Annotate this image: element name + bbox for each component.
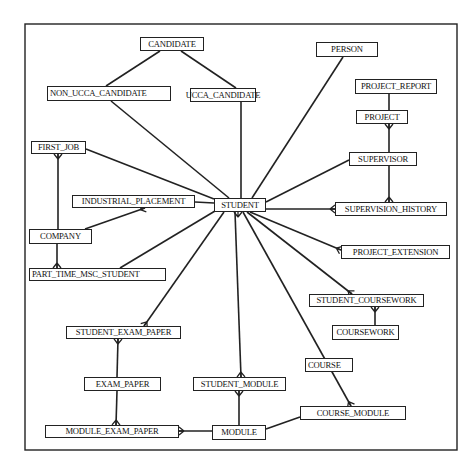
- entity-part-time-msc-student[interactable]: PART_TIME_MSC_STUDENT: [29, 268, 166, 281]
- crowfoot-icon: [179, 427, 184, 435]
- entity-label: PROJECT: [365, 113, 400, 122]
- relationship-student_exam_paper-exam_paper[interactable]: [117, 339, 118, 377]
- entity-label: MODULE_EXAM_PAPER: [65, 427, 158, 436]
- relationship-industrial_placement-company[interactable]: [85, 208, 145, 229]
- entity-supervision-history[interactable]: SUPERVISION_HISTORY: [335, 202, 447, 216]
- entity-label: PERSON: [331, 45, 363, 54]
- entity-label: COURSE_MODULE: [317, 409, 389, 418]
- entity-project-report[interactable]: PROJECT_REPORT: [355, 79, 437, 94]
- entity-industrial-placement[interactable]: INDUSTRIAL_PLACEMENT: [72, 195, 195, 208]
- entity-student-exam-paper[interactable]: STUDENT_EXAM_PAPER: [66, 326, 181, 339]
- entity-course[interactable]: COURSE: [305, 358, 353, 372]
- crowfoot-icon: [385, 124, 393, 129]
- entity-label: EXAM_PAPER: [96, 380, 150, 389]
- entity-label: COURSE: [308, 361, 341, 370]
- relationship-student-project_extension[interactable]: [250, 212, 341, 250]
- entity-label: STUDENT: [221, 201, 259, 210]
- entity-first-job[interactable]: FIRST_JOB: [31, 141, 86, 154]
- entity-label: FIRST_JOB: [38, 143, 79, 152]
- crowfoot-icon: [114, 339, 122, 344]
- entity-label: PROJECT_EXTENSION: [353, 248, 438, 257]
- entity-module-exam-paper[interactable]: MODULE_EXAM_PAPER: [45, 425, 179, 438]
- entity-coursework[interactable]: COURSEWORK: [332, 325, 399, 340]
- relationship-module-course_module[interactable]: [266, 417, 300, 429]
- entity-candidate[interactable]: CANDIDATE: [140, 37, 204, 51]
- entity-label: MODULE: [221, 428, 257, 437]
- entity-label: UCCA_CANDIDATE: [186, 91, 261, 100]
- entity-label: STUDENT_COURSEWORK: [316, 296, 416, 305]
- crowfoot-icon: [54, 154, 62, 159]
- entity-student-coursework[interactable]: STUDENT_COURSEWORK: [309, 294, 424, 307]
- entity-label: SUPERVISION_HISTORY: [345, 205, 437, 214]
- er-diagram: CANDIDATENON_UCCA_CANDIDATEUCCA_CANDIDAT…: [0, 0, 476, 475]
- entity-company[interactable]: COMPANY: [29, 229, 92, 244]
- entity-student-module[interactable]: STUDENT_MODULE: [193, 377, 286, 391]
- relationship-supervisor-student[interactable]: [266, 160, 349, 202]
- entity-supervisor[interactable]: SUPERVISOR: [349, 152, 417, 166]
- entity-label: COMPANY: [40, 232, 81, 241]
- relationship-student-student_module[interactable]: [235, 212, 241, 377]
- entity-label: INDUSTRIAL_PLACEMENT: [82, 197, 185, 206]
- entity-student[interactable]: STUDENT: [214, 198, 266, 212]
- entity-exam-paper[interactable]: EXAM_PAPER: [84, 377, 161, 391]
- entity-label: PROJECT_REPORT: [361, 82, 431, 91]
- relationship-part_time_msc_student-student[interactable]: [120, 211, 215, 268]
- entity-label: CANDIDATE: [148, 40, 195, 49]
- crowfoot-icon: [371, 307, 379, 312]
- entity-label: SUPERVISOR: [358, 155, 408, 164]
- relationship-first_job-student[interactable]: [86, 149, 214, 199]
- entity-project[interactable]: PROJECT: [356, 110, 408, 124]
- entity-person[interactable]: PERSON: [316, 42, 378, 57]
- relationship-candidate-ucca_candidate[interactable]: [181, 51, 236, 88]
- entity-non-ucca-candidate[interactable]: NON_UCCA_CANDIDATE: [47, 86, 171, 101]
- entity-module[interactable]: MODULE: [212, 425, 266, 440]
- entity-label: STUDENT_EXAM_PAPER: [76, 328, 171, 337]
- entity-label: NON_UCCA_CANDIDATE: [50, 89, 147, 98]
- crowfoot-icon: [235, 391, 243, 396]
- entity-course-module[interactable]: COURSE_MODULE: [300, 406, 406, 420]
- relationship-industrial_placement-student[interactable]: [195, 202, 214, 203]
- relationship-student-student_coursework[interactable]: [247, 212, 352, 294]
- relationship-candidate-non_ucca_candidate[interactable]: [106, 51, 160, 86]
- entity-label: COURSEWORK: [336, 328, 394, 337]
- entity-project-extension[interactable]: PROJECT_EXTENSION: [341, 245, 450, 259]
- relationship-non_ucca_candidate-student[interactable]: [111, 101, 229, 198]
- relationship-person-student[interactable]: [252, 57, 343, 198]
- entity-label: PART_TIME_MSC_STUDENT: [32, 270, 140, 279]
- entity-ucca-candidate[interactable]: UCCA_CANDIDATE: [190, 88, 256, 102]
- entity-label: STUDENT_MODULE: [201, 380, 278, 389]
